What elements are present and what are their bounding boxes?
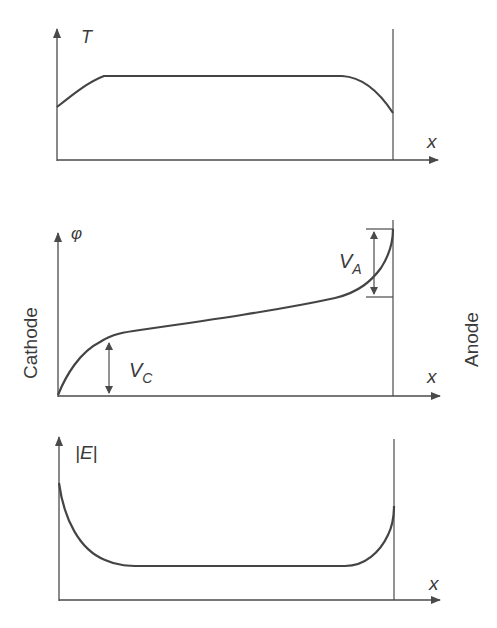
temperature-curve <box>57 76 393 113</box>
potential-panel: VA VC φ x Cathode Anode <box>20 220 482 397</box>
field-panel: |E| x <box>59 437 440 601</box>
phi-y-label: φ <box>71 224 82 243</box>
t-y-label: T <box>81 27 94 47</box>
va-label: VA <box>339 250 362 277</box>
e-y-label: |E| <box>75 442 98 463</box>
t-x-label: x <box>426 131 438 152</box>
field-curve <box>59 483 394 566</box>
phi-x-label: x <box>426 366 438 387</box>
vc-label: VC <box>129 359 153 386</box>
diagram-canvas: T x VA VC φ x Cathode Anode |E| x <box>0 0 497 628</box>
e-x-label: x <box>428 573 440 594</box>
anode-label: Anode <box>461 312 482 367</box>
temperature-panel: T x <box>57 27 438 161</box>
cathode-label: Cathode <box>20 307 41 379</box>
